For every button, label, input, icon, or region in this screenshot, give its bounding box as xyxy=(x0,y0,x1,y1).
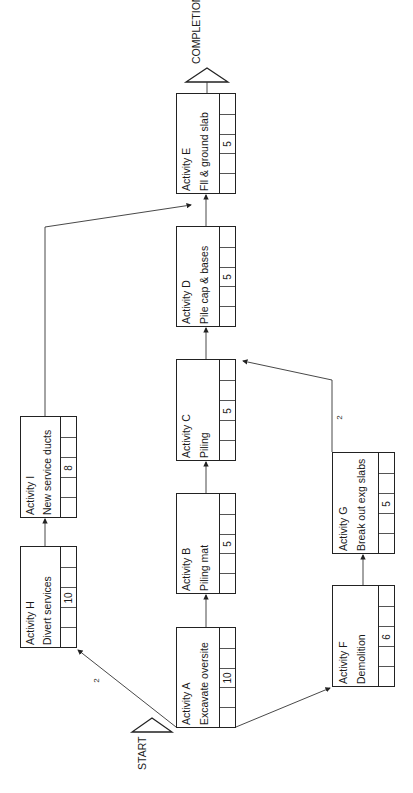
activity-duration: 5 xyxy=(222,536,234,551)
activity-node-c[interactable]: Activity C Piling 5 xyxy=(176,359,236,461)
activity-title: Activity H xyxy=(24,601,36,645)
activity-node-b[interactable]: Activity B Piling mat 5 xyxy=(176,493,236,594)
activity-title: Activity E xyxy=(180,148,192,191)
activity-title: Activity F xyxy=(337,641,349,684)
activity-title: Activity G xyxy=(337,507,349,551)
start-label: START xyxy=(136,737,148,770)
activity-desc: Divert services xyxy=(41,576,53,645)
activity-desc: Excavate oversite xyxy=(198,642,210,725)
activity-duration: 5 xyxy=(381,496,393,511)
activity-title: Activity I xyxy=(24,476,36,515)
activity-node-i[interactable]: Activity I New service ducts 8 xyxy=(20,416,77,518)
activity-desc: Fll & ground slab xyxy=(198,112,210,191)
activity-duration: 10 xyxy=(63,590,75,605)
activity-duration: 5 xyxy=(222,136,234,151)
activity-title: Activity A xyxy=(180,682,192,725)
start-triangle xyxy=(132,718,172,732)
activity-desc: Pile cap & bases xyxy=(198,246,210,324)
activity-duration: 5 xyxy=(222,269,234,284)
completion-triangle xyxy=(186,68,228,82)
activity-node-f[interactable]: Activity F Demolition 6 xyxy=(332,585,395,687)
activity-duration: 8 xyxy=(63,460,75,475)
activity-desc: Piling mat xyxy=(198,545,210,591)
activity-desc: Demolition xyxy=(355,634,367,684)
activity-node-a[interactable]: Activity A Excavate oversite 10 xyxy=(176,627,236,728)
completion-label: COMPLETION xyxy=(190,0,202,64)
lag-label-g-c: 2 xyxy=(335,415,344,419)
lag-label-start-h: 2 xyxy=(92,678,101,682)
activity-duration: 5 xyxy=(222,403,234,418)
activity-desc: Break out exg slabs xyxy=(355,459,367,551)
activity-desc: New service ducts xyxy=(41,430,53,515)
activity-title: Activity D xyxy=(180,280,192,324)
activity-node-e[interactable]: Activity E Fll & ground slab 5 xyxy=(176,93,236,194)
activity-desc: Piling xyxy=(198,432,210,458)
activity-duration: 6 xyxy=(381,629,393,644)
activity-title: Activity C xyxy=(180,414,192,458)
activity-title: Activity B xyxy=(180,548,192,591)
activity-node-g[interactable]: Activity G Break out exg slabs 5 xyxy=(332,452,395,554)
activity-node-d[interactable]: Activity D Pile cap & bases 5 xyxy=(176,226,236,327)
activity-duration: 10 xyxy=(222,670,234,685)
activity-node-h[interactable]: Activity H Divert services 10 xyxy=(20,546,77,648)
